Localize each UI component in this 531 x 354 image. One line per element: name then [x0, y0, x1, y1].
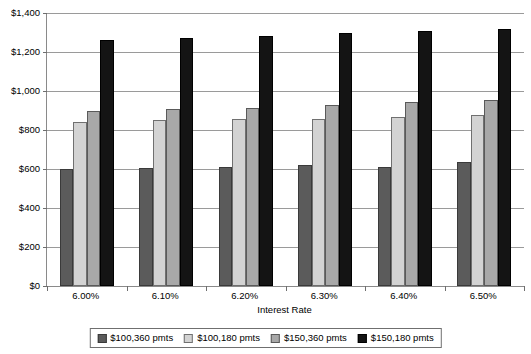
chart-legend: $100,360 pmts$100,180 pmts$150,360 pmts$… — [89, 328, 441, 348]
bar[interactable] — [246, 108, 260, 286]
x-tick-label: 6.40% — [390, 290, 417, 302]
bar-group — [60, 13, 114, 286]
y-tick-label: $1,200 — [0, 47, 40, 57]
legend-swatch-icon — [184, 334, 193, 343]
bar[interactable] — [498, 29, 512, 286]
plot-area — [46, 13, 524, 287]
bar[interactable] — [391, 117, 405, 286]
bar[interactable] — [60, 169, 74, 286]
bar[interactable] — [232, 119, 246, 286]
y-axis-tick-labels: $0$200$400$600$800$1,000$1,200$1,400 — [0, 0, 40, 300]
bar[interactable] — [418, 31, 432, 286]
legend-label: $150,180 pmts — [371, 332, 434, 344]
bar[interactable] — [100, 40, 114, 286]
x-tick-label: 6.20% — [231, 290, 258, 302]
y-tick-label: $1,400 — [0, 8, 40, 18]
x-tick-label: 6.30% — [311, 290, 338, 302]
x-tick-label: 6.10% — [152, 290, 179, 302]
legend-swatch-icon — [358, 334, 367, 343]
y-tick-label: $800 — [0, 125, 40, 135]
bar-group — [219, 13, 273, 286]
bar-chart: $0$200$400$600$800$1,000$1,200$1,400 6.0… — [0, 0, 531, 354]
bar[interactable] — [312, 119, 326, 286]
bar[interactable] — [180, 38, 194, 286]
legend-swatch-icon — [97, 334, 106, 343]
legend-label: $100,360 pmts — [110, 332, 173, 344]
bar-group — [378, 13, 432, 286]
y-tick-label: $1,000 — [0, 86, 40, 96]
x-tick-mark — [524, 286, 525, 291]
bar-groups — [47, 13, 524, 286]
bar-group — [457, 13, 511, 286]
y-tick-label: $400 — [0, 203, 40, 213]
bar[interactable] — [325, 105, 339, 286]
legend-item[interactable]: $150,180 pmts — [358, 332, 434, 344]
y-tick-label: $0 — [0, 281, 40, 291]
legend-item[interactable]: $150,360 pmts — [271, 332, 347, 344]
bar[interactable] — [339, 33, 353, 286]
bar[interactable] — [166, 109, 180, 286]
x-tick-label: 6.50% — [470, 290, 497, 302]
bar[interactable] — [378, 167, 392, 286]
y-tick-label: $200 — [0, 242, 40, 252]
bar[interactable] — [259, 36, 273, 286]
y-tick-label: $600 — [0, 164, 40, 174]
bar-group — [298, 13, 352, 286]
bar[interactable] — [471, 115, 485, 286]
legend-swatch-icon — [271, 334, 280, 343]
plot-wrapper: $0$200$400$600$800$1,000$1,200$1,400 — [0, 0, 531, 300]
bar[interactable] — [87, 111, 101, 286]
bar[interactable] — [405, 102, 419, 286]
bar[interactable] — [73, 122, 87, 286]
x-tick-label: 6.00% — [72, 290, 99, 302]
bar[interactable] — [298, 165, 312, 286]
legend-item[interactable]: $100,360 pmts — [97, 332, 173, 344]
bar[interactable] — [219, 167, 233, 286]
bar[interactable] — [139, 168, 153, 286]
bar[interactable] — [457, 162, 471, 286]
bar[interactable] — [153, 120, 167, 286]
x-axis-title: Interest Rate — [46, 304, 523, 316]
legend-label: $100,180 pmts — [197, 332, 260, 344]
legend-label: $150,360 pmts — [284, 332, 347, 344]
legend-item[interactable]: $100,180 pmts — [184, 332, 260, 344]
bar-group — [139, 13, 193, 286]
bar[interactable] — [484, 100, 498, 286]
